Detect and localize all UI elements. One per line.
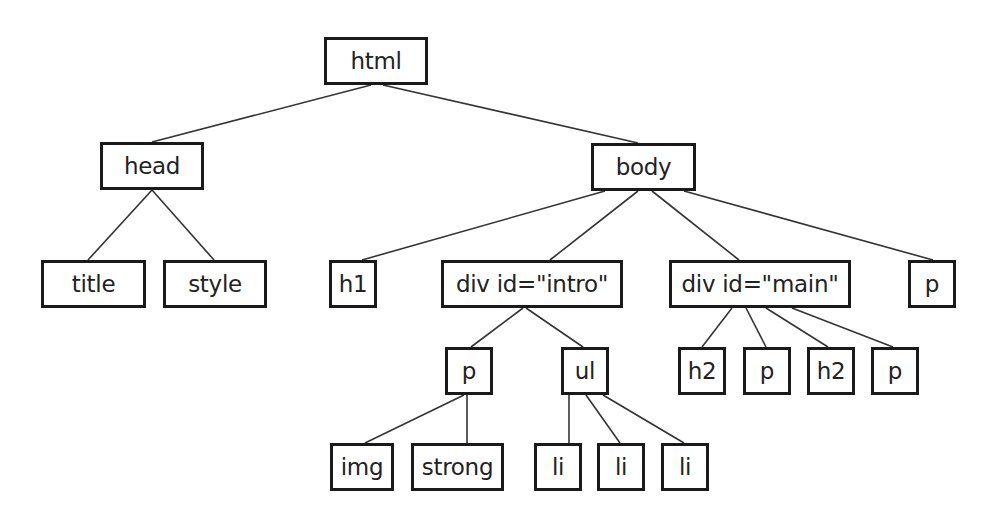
- node-style: style: [163, 260, 267, 308]
- edge-html-to-body: [383, 85, 638, 143]
- edge-div-intro-to-p-intro: [471, 308, 523, 347]
- node-body: body: [591, 143, 696, 191]
- edge-body-to-h1: [362, 191, 605, 260]
- node-h2-a: h2: [678, 347, 726, 395]
- node-li-2: li: [597, 443, 645, 491]
- edge-html-to-head: [152, 85, 371, 142]
- edge-div-main-to-h2-a: [702, 308, 732, 347]
- dom-tree-diagram: html head body title style h1 div id="in…: [0, 0, 992, 530]
- node-div-main: div id="main": [669, 260, 851, 308]
- node-li-3: li: [661, 443, 709, 491]
- edge-div-main-to-p-main-a: [746, 308, 766, 347]
- edge-body-to-div-main: [652, 191, 739, 260]
- node-h2-b: h2: [807, 347, 855, 395]
- node-li-1: li: [534, 443, 582, 491]
- edge-div-main-to-h2-b: [766, 308, 828, 347]
- node-p-body: p: [908, 260, 956, 308]
- node-strong: strong: [411, 443, 504, 491]
- edge-head-to-style: [152, 190, 214, 260]
- edge-p-intro-to-img: [365, 395, 464, 443]
- node-img: img: [330, 443, 394, 491]
- node-p-main-b: p: [871, 347, 919, 395]
- edge-body-to-p-body: [684, 191, 933, 260]
- edge-body-to-div-intro: [550, 191, 638, 260]
- edge-head-to-title: [88, 190, 152, 260]
- node-p-main-a: p: [743, 347, 791, 395]
- node-html: html: [324, 37, 428, 85]
- node-ul: ul: [561, 347, 609, 395]
- node-div-intro: div id="intro": [441, 260, 623, 308]
- node-title: title: [41, 260, 146, 308]
- node-h1: h1: [329, 260, 377, 308]
- node-p-intro: p: [445, 347, 493, 395]
- node-head: head: [100, 142, 204, 190]
- edge-div-intro-to-ul: [526, 308, 583, 347]
- edge-div-main-to-p-main-b: [792, 308, 893, 347]
